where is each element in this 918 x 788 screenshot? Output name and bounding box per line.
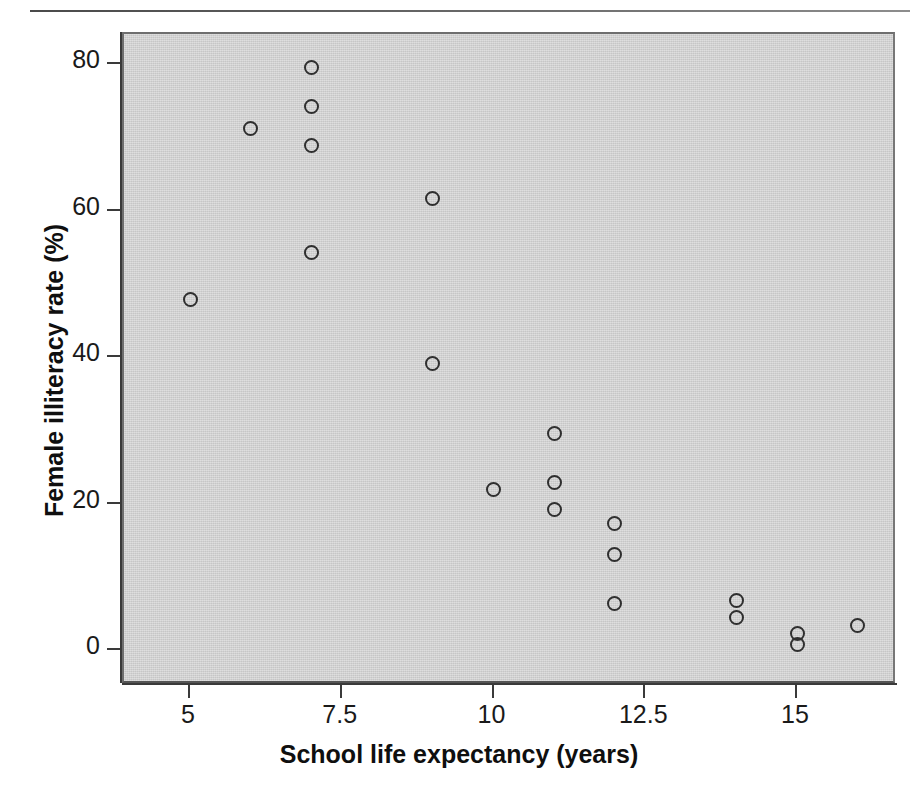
data-point — [243, 121, 258, 136]
data-point — [304, 99, 319, 114]
x-axis-tick-label: 7.5 — [295, 700, 385, 729]
y-axis-tick — [107, 648, 120, 650]
x-axis-line — [122, 683, 897, 685]
x-axis-tick-label: 12.5 — [598, 700, 688, 729]
data-point — [607, 547, 622, 562]
x-axis-tick — [492, 685, 494, 698]
data-point — [547, 502, 562, 517]
data-point — [850, 618, 865, 633]
y-axis-tick — [107, 355, 120, 357]
y-axis-title: Female illiteracy rate (%) — [40, 41, 69, 701]
data-point — [729, 593, 744, 608]
data-point — [607, 516, 622, 531]
data-point — [729, 610, 744, 625]
x-axis-tick — [795, 685, 797, 698]
data-point — [425, 356, 440, 371]
x-axis-tick — [188, 685, 190, 698]
x-axis-title: School life expectancy (years) — [0, 740, 918, 769]
scatter-plot-figure: 020406080 57.51012.515 School life expec… — [0, 0, 918, 788]
y-axis-tick — [107, 209, 120, 211]
plot-background-texture — [124, 34, 893, 681]
data-point — [425, 191, 440, 206]
data-point — [790, 637, 805, 652]
x-axis-tick — [340, 685, 342, 698]
data-point — [304, 138, 319, 153]
top-divider-rule — [30, 10, 910, 12]
data-point — [486, 482, 501, 497]
y-axis-tick — [107, 62, 120, 64]
data-point — [304, 60, 319, 75]
data-point — [607, 596, 622, 611]
y-axis-line — [120, 32, 122, 683]
data-point — [547, 475, 562, 490]
x-axis-tick-label: 5 — [143, 700, 233, 729]
x-axis-tick-label: 15 — [750, 700, 840, 729]
data-point — [304, 245, 319, 260]
x-axis-tick — [643, 685, 645, 698]
x-axis-tick-label: 10 — [447, 700, 537, 729]
plot-area — [122, 32, 895, 683]
data-point — [547, 426, 562, 441]
y-axis-tick — [107, 502, 120, 504]
data-point — [183, 292, 198, 307]
